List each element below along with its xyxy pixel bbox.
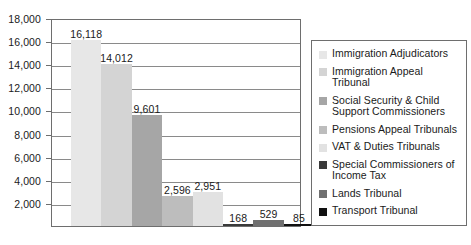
- legend-swatch-icon: [319, 68, 327, 76]
- bar: [132, 115, 162, 226]
- legend-item-label: Lands Tribunal: [332, 188, 402, 200]
- y-axis-tick-label: 16,000: [8, 36, 41, 48]
- legend-item[interactable]: VAT & Duties Tribunals: [319, 141, 460, 153]
- legend-item[interactable]: Lands Tribunal: [319, 188, 460, 200]
- legend-swatch-icon: [319, 144, 327, 152]
- y-axis-tick-label: 4,000: [14, 175, 41, 187]
- legend-item[interactable]: Immigration Adjudicators: [319, 48, 460, 60]
- legend-item-label: Immigration Appeal Tribunal: [332, 66, 460, 89]
- legend-item[interactable]: Social Security & Child Support Commissi…: [319, 95, 460, 118]
- y-axis-tick-label: 10,000: [8, 105, 41, 117]
- bar-value-label: 2,951: [186, 180, 230, 192]
- legend-item[interactable]: Pensions Appeal Tribunals: [319, 124, 460, 136]
- y-axis: 18,00016,00014,00012,00010,0008,0006,000…: [0, 0, 46, 245]
- bar: [71, 40, 101, 226]
- bar: [162, 196, 192, 226]
- legend-item-label: VAT & Duties Tribunals: [332, 141, 440, 153]
- y-axis-tick-label: 18,000: [8, 13, 41, 25]
- legend-item-label: Social Security & Child Support Commissi…: [332, 95, 460, 118]
- legend-item[interactable]: Immigration Appeal Tribunal: [319, 66, 460, 89]
- legend-item[interactable]: Special Commissioners of Income Tax: [319, 159, 460, 182]
- legend-item-label: Special Commissioners of Income Tax: [332, 159, 460, 182]
- legend-swatch-icon: [319, 97, 327, 105]
- legend-item-label: Transport Tribunal: [332, 205, 418, 217]
- y-axis-tick-label: 8,000: [14, 129, 41, 141]
- legend-swatch-icon: [319, 190, 327, 198]
- legend-item-label: Pensions Appeal Tribunals: [332, 124, 457, 136]
- legend-item-label: Immigration Adjudicators: [332, 48, 448, 60]
- y-axis-tick-label: 6,000: [14, 152, 41, 164]
- bar-value-label: 9,601: [125, 103, 169, 115]
- y-axis-tick-label: 2,000: [14, 198, 41, 210]
- y-axis-tick-label: 14,000: [8, 59, 41, 71]
- bar: [101, 64, 131, 226]
- plot-area: 16,11814,0129,6012,5962,95116852985: [51, 19, 301, 227]
- legend-swatch-icon: [319, 51, 327, 59]
- bar-value-label: 14,012: [94, 52, 138, 64]
- bar: [284, 224, 314, 226]
- bar: [223, 224, 253, 226]
- y-axis-tick-label: 12,000: [8, 82, 41, 94]
- legend-swatch-icon: [319, 161, 327, 169]
- bar-value-label: 16,118: [64, 28, 108, 40]
- legend: Immigration AdjudicatorsImmigration Appe…: [311, 40, 467, 226]
- bar-chart: 18,00016,00014,00012,00010,0008,0006,000…: [0, 0, 471, 245]
- legend-item[interactable]: Transport Tribunal: [319, 205, 460, 217]
- legend-swatch-icon: [319, 126, 327, 134]
- bars-layer: 16,11814,0129,6012,5962,95116852985: [52, 20, 300, 226]
- legend-swatch-icon: [319, 208, 327, 216]
